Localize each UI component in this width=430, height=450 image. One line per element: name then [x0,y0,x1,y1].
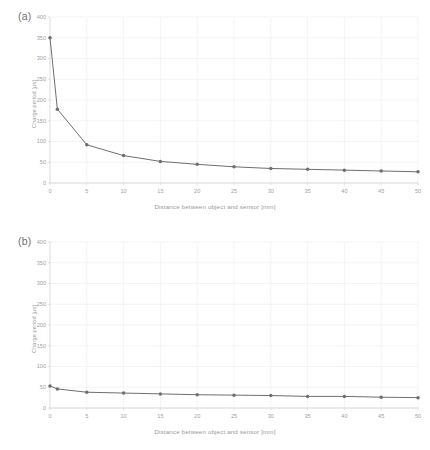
data-point-marker [85,390,89,394]
x-tick-label: 0 [40,413,60,419]
y-tick-label: 100 [37,363,46,369]
data-point-marker [56,107,60,111]
data-point-marker [379,395,383,399]
figure-container: (a) 050100150200250300350400051015202530… [0,0,430,450]
x-tick-label: 20 [187,413,207,419]
y-tick-label: 300 [37,55,46,61]
chart-panel-a: (a) 050100150200250300350400051015202530… [0,0,430,225]
y-tick-label: 350 [37,35,46,41]
data-point-marker [232,165,236,169]
y-tick-label: 0 [43,405,46,411]
x-tick-label: 35 [298,413,318,419]
data-point-marker [343,168,347,172]
x-axis-title: Distance between object and sensor [mm] [0,203,430,210]
x-tick-label: 0 [40,188,60,194]
data-point-marker [195,393,199,397]
x-tick-label: 10 [114,413,134,419]
y-tick-label: 200 [37,97,46,103]
data-point-marker [269,167,273,171]
x-tick-label: 5 [77,188,97,194]
data-point-marker [122,154,126,158]
plot-area-b [0,225,430,450]
data-point-marker [122,391,126,395]
y-tick-label: 400 [37,239,46,245]
data-point-marker [195,163,199,167]
x-tick-label: 20 [187,188,207,194]
y-tick-label: 200 [37,322,46,328]
x-tick-label: 25 [224,188,244,194]
x-tick-label: 45 [371,188,391,194]
data-point-marker [159,160,163,164]
data-point-marker [416,396,420,400]
y-tick-label: 400 [37,14,46,20]
plot-area-a [0,0,430,225]
data-point-marker [306,168,310,172]
x-tick-label: 25 [224,413,244,419]
x-tick-label: 15 [150,188,170,194]
x-tick-label: 50 [408,188,428,194]
data-point-marker [159,392,163,396]
x-axis-title: Distance between object and sensor [mm] [0,428,430,435]
chart-panel-b: (b) 050100150200250300350400051015202530… [0,225,430,450]
data-point-marker [379,169,383,173]
x-tick-label: 10 [114,188,134,194]
x-tick-label: 15 [150,413,170,419]
data-point-marker [232,393,236,397]
data-point-marker [56,387,60,391]
x-tick-label: 5 [77,413,97,419]
data-point-marker [85,143,89,147]
x-tick-label: 45 [371,413,391,419]
y-tick-label: 250 [37,301,46,307]
x-tick-label: 35 [298,188,318,194]
y-tick-label: 50 [40,384,46,390]
y-tick-label: 50 [40,159,46,165]
x-tick-label: 30 [261,413,281,419]
data-point-marker [416,170,420,174]
x-tick-label: 40 [334,413,354,419]
y-tick-label: 150 [37,118,46,124]
data-point-marker [269,394,273,398]
y-tick-label: 0 [43,180,46,186]
y-tick-label: 350 [37,260,46,266]
y-tick-label: 150 [37,343,46,349]
y-tick-label: 300 [37,280,46,286]
data-point-marker [306,395,310,399]
x-tick-label: 50 [408,413,428,419]
data-point-marker [48,384,52,388]
y-tick-label: 100 [37,138,46,144]
y-tick-label: 250 [37,76,46,82]
x-tick-label: 30 [261,188,281,194]
data-point-marker [48,36,52,40]
data-point-marker [343,395,347,399]
x-tick-label: 40 [334,188,354,194]
y-axis-title: Charge period [µs] [31,305,37,353]
y-axis-title: Charge period [µs] [31,80,37,128]
